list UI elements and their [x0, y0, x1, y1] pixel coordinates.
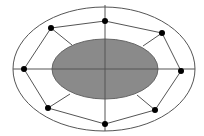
node-bottom: [102, 121, 108, 127]
ellipse-network-diagram: [0, 0, 204, 136]
node-top-right: [159, 30, 165, 36]
node-top: [102, 18, 108, 24]
node-bottom-right: [152, 107, 158, 113]
node-top-left: [48, 25, 54, 31]
node-left: [21, 66, 27, 72]
node-right: [178, 68, 184, 74]
node-bottom-left: [45, 105, 51, 111]
